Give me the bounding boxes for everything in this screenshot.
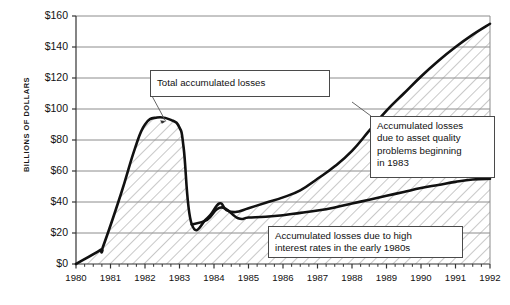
y-axis-tick-160: $160 — [24, 9, 68, 21]
y-axis-tick-60: $60 — [24, 164, 68, 176]
x-axis-tick-1989: 1989 — [376, 272, 397, 283]
annotation-total-text: Total accumulated losses — [157, 77, 265, 89]
x-axis-tick-1981: 1981 — [100, 272, 121, 283]
x-axis-tick-1987: 1987 — [307, 272, 328, 283]
x-axis-tick-1985: 1985 — [238, 272, 259, 283]
x-axis-tick-1982: 1982 — [134, 272, 155, 283]
annotation-asset-line-4: in 1983 — [377, 157, 488, 169]
x-axis-tick-1990: 1990 — [410, 272, 431, 283]
annotation-asset-line-2: due to asset quality — [377, 132, 488, 144]
y-axis-tick-40: $40 — [24, 195, 68, 207]
annotation-asset-quality-losses: Accumulated losses due to asset quality … — [370, 116, 495, 178]
x-axis-tick-1983: 1983 — [169, 272, 190, 283]
x-axis-tick-1991: 1991 — [445, 272, 466, 283]
annotation-total-accumulated-losses: Total accumulated losses — [150, 70, 330, 97]
y-axis-tick-120: $120 — [24, 71, 68, 83]
y-axis-tick-100: $100 — [24, 102, 68, 114]
y-axis-tick-140: $140 — [24, 40, 68, 52]
annotation-leader-line — [152, 96, 371, 124]
chart-container: $0$20$40$60$80$100$120$140$160 198019811… — [0, 0, 510, 305]
annotation-asset-line-1: Accumulated losses — [377, 120, 488, 132]
annotation-interest-line-1: Accumulated losses due to high — [275, 230, 456, 242]
annotation-interest-rate-losses: Accumulated losses due to high interest … — [268, 226, 463, 258]
y-axis-tick-0: $0 — [24, 257, 68, 269]
y-axis-title: BILLIONS OF DOLLARS — [22, 55, 31, 195]
y-axis-tick-80: $80 — [24, 133, 68, 145]
x-axis-tick-1980: 1980 — [65, 272, 86, 283]
x-axis-tick-1984: 1984 — [203, 272, 224, 283]
x-axis-tick-1986: 1986 — [272, 272, 293, 283]
x-axis-tick-1992: 1992 — [479, 272, 500, 283]
annotation-asset-line-3: problems beginning — [377, 145, 488, 157]
y-axis-tick-20: $20 — [24, 226, 68, 238]
x-axis-tick-1988: 1988 — [341, 272, 362, 283]
annotation-interest-line-2: interest rates in the early 1980s — [275, 242, 456, 254]
